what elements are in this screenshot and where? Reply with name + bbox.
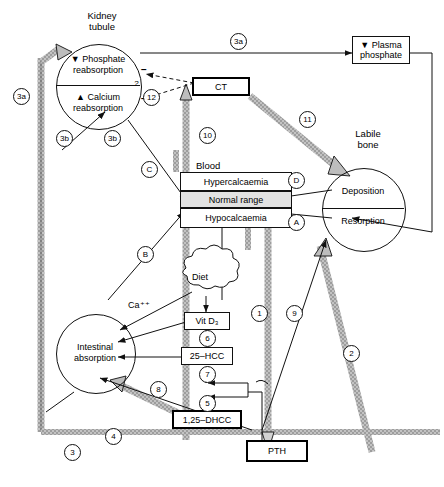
band-hypercalcaemia: Hypercalcaemia (180, 172, 292, 191)
blood-title: Blood (196, 160, 220, 171)
hcc25-label: 25–HCC (190, 351, 225, 361)
key-A: A (288, 214, 305, 231)
labile-bone-node (322, 168, 406, 252)
key-11: 11 (299, 111, 316, 128)
dhcc-box[interactable]: 1,25–DHCC (172, 410, 242, 429)
calcium-ion-label: Ca⁺⁺ (128, 300, 150, 310)
kidney-tubule-title: Kidneytubule (64, 10, 140, 32)
key-12: 12 (143, 89, 160, 106)
vit-d3-box[interactable]: Vit D₃ (184, 312, 230, 330)
pathway-2-thick (314, 238, 372, 452)
connector-9-to-resorption (262, 240, 326, 430)
up-arrow-icon: ▲ (76, 92, 85, 102)
calcium-homeostasis-diagram: Kidneytubule Labilebone Blood ▼ Phosphat… (0, 0, 444, 487)
kidney-divider (56, 85, 140, 86)
key-4: 4 (105, 428, 122, 445)
key-3: 3 (64, 444, 81, 461)
key-6: 6 (199, 330, 216, 347)
deposition-label: Deposition (326, 186, 400, 197)
pth-box[interactable]: PTH (246, 440, 308, 462)
diet-cloud-shape (183, 245, 240, 289)
connector-diet-to-intestine (120, 292, 192, 330)
bone-divider (322, 208, 404, 209)
ct-box[interactable]: CT (192, 77, 250, 96)
band-hypocalcaemia-label: Hypocalcaemia (205, 213, 267, 223)
key-10: 10 (199, 127, 216, 144)
ct-label: CT (215, 82, 227, 92)
plasma-phosphate-label: ▼ Plasmaphosphate (360, 40, 402, 60)
labile-bone-title: Labilebone (336, 128, 400, 150)
pth-label: PTH (268, 446, 286, 456)
key-8: 8 (150, 381, 167, 398)
phosphate-reabsorption-label: ▼ Phosphatereabsorption (62, 54, 134, 75)
key-3b-left: 3b (56, 130, 73, 147)
band-normal-range: Normal range (180, 191, 292, 208)
key-3a-left: 3a (13, 88, 30, 105)
calcium-reabsorption-label: ▲ Calciumreabsorption (62, 92, 134, 113)
intestinal-absorption-label: Intestinalabsorption (58, 342, 132, 363)
pathway-11-thick (250, 96, 350, 176)
key-3b-mid: 3b (104, 130, 121, 147)
pathway-1-thick (262, 222, 274, 452)
band-hypocalcaemia: Hypocalcaemia (180, 208, 292, 228)
uncertainty-mark: ? (134, 79, 138, 88)
key-2: 2 (343, 345, 360, 362)
band-hypercalcaemia-label: Hypercalcaemia (204, 177, 269, 187)
hcc25-box[interactable]: 25–HCC (181, 347, 233, 365)
down-arrow-icon-plasma: ▼ (360, 40, 369, 50)
dhcc-label: 1,25–DHCC (183, 415, 232, 425)
key-3a-top: 3a (230, 33, 247, 50)
band-normal-range-label: Normal range (209, 195, 264, 205)
key-C: C (141, 161, 158, 178)
connector-intestine-to-left-band (46, 392, 74, 412)
key-B: B (137, 246, 154, 263)
down-arrow-icon: ▼ (71, 54, 80, 64)
key-9: 9 (286, 305, 303, 322)
key-5: 5 (199, 395, 216, 412)
key-1: 1 (251, 305, 268, 322)
plasma-phosphate-box[interactable]: ▼ Plasmaphosphate (352, 36, 410, 64)
key-7: 7 (199, 366, 216, 383)
vit-d3-label: Vit D₃ (195, 316, 218, 326)
key-D: D (288, 172, 305, 189)
diet-label: Diet (192, 272, 208, 282)
resorption-label: Resorption (326, 216, 400, 227)
minus-sign-upper: − (141, 64, 147, 75)
